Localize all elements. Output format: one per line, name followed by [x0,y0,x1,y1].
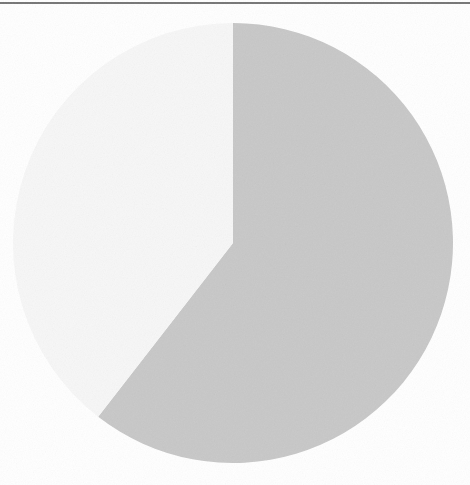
pie-chart-canvas [0,0,470,485]
pie-chart-figure [0,0,470,485]
